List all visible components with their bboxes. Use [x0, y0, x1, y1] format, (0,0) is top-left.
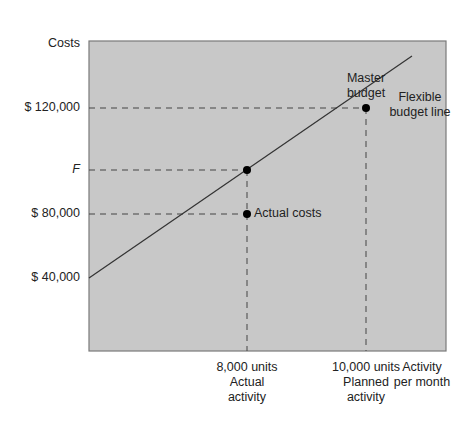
y-axis-title: Costs — [48, 36, 80, 51]
x-axis-title: Activity per month — [382, 360, 462, 390]
x-tick-8000: 8,000 units Actual activity — [202, 360, 292, 405]
x-tick-10000-caption2: activity — [321, 390, 411, 405]
y-tick-F: F — [0, 162, 80, 177]
x-axis-title-line2: per month — [382, 375, 462, 390]
flex-label-line2: budget line — [380, 105, 460, 120]
point-F — [243, 166, 251, 174]
point-actual-costs — [243, 210, 251, 218]
y-tick-80000: $ 80,000 — [0, 206, 80, 221]
actual-costs-label: Actual costs — [254, 206, 321, 221]
x-tick-8000-value: 8,000 units — [202, 360, 292, 375]
plot-area — [89, 41, 446, 351]
x-axis-title-line1: Activity — [382, 360, 462, 375]
y-tick-40000: $ 40,000 — [0, 270, 80, 285]
x-tick-8000-caption1: Actual — [202, 375, 292, 390]
flexible-budget-line-label: Flexible budget line — [380, 90, 460, 120]
flex-label-line1: Flexible — [380, 90, 460, 105]
x-tick-8000-caption2: activity — [202, 390, 292, 405]
y-tick-120000: $ 120,000 — [0, 100, 80, 115]
master-budget-line1: Master — [343, 71, 389, 86]
point-master-budget — [362, 104, 370, 112]
